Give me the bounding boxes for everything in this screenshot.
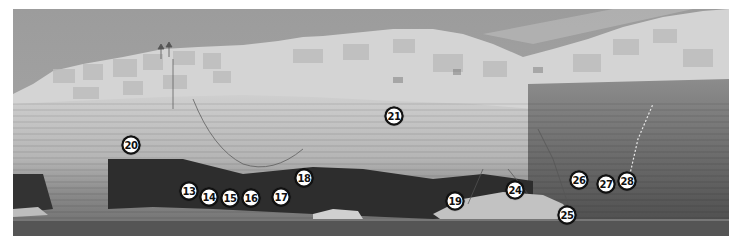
route-marker-17: 17 — [272, 188, 291, 207]
route-marker-19: 19 — [446, 192, 465, 211]
route-marker-24: 24 — [506, 181, 525, 200]
route-marker-13: 13 — [180, 182, 199, 201]
route-marker-26: 26 — [570, 171, 589, 190]
route-marker-25: 25 — [558, 206, 577, 225]
route-marker-14: 14 — [200, 188, 219, 207]
cliff-illustration — [13, 9, 729, 236]
route-marker-27: 27 — [597, 175, 616, 194]
route-marker-28: 28 — [618, 172, 637, 191]
route-marker-18: 18 — [295, 169, 314, 188]
cliff-photo — [13, 9, 729, 236]
route-marker-15: 15 — [221, 189, 240, 208]
route-marker-20: 20 — [122, 136, 141, 155]
route-marker-21: 21 — [385, 107, 404, 126]
sea — [13, 219, 729, 236]
route-marker-16: 16 — [242, 189, 261, 208]
